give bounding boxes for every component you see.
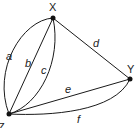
vertex-label-z: Z bbox=[0, 121, 5, 128]
vertex-x bbox=[51, 16, 56, 21]
edge-label-d: d bbox=[93, 37, 100, 49]
graph-diagram: X Y Z a b c d e f bbox=[0, 0, 139, 128]
vertex-label-x: X bbox=[49, 1, 57, 13]
edge-label-c: c bbox=[41, 64, 47, 76]
edge-label-e: e bbox=[65, 83, 71, 95]
edge-label-a: a bbox=[6, 50, 12, 62]
vertex-z bbox=[7, 112, 12, 117]
edge-d bbox=[53, 18, 130, 79]
vertex-label-y: Y bbox=[127, 63, 135, 75]
edge-label-b: b bbox=[25, 57, 31, 69]
edge-label-f: f bbox=[77, 113, 81, 125]
vertex-y bbox=[128, 77, 133, 82]
